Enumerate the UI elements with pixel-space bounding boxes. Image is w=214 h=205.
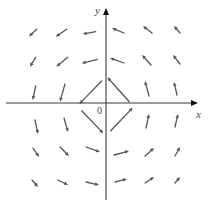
vector-shaft	[86, 182, 95, 184]
vector-arrow	[33, 148, 39, 157]
vector-shaft	[115, 180, 123, 182]
vector-arrow	[143, 26, 152, 33]
vector-arrow	[173, 82, 177, 95]
y-axis-label: y	[94, 4, 100, 16]
vector-shaft	[59, 57, 67, 64]
arrowhead-icon	[95, 182, 99, 186]
vector-arrow	[115, 178, 127, 182]
vector-arrow	[30, 57, 36, 66]
vector-shaft	[32, 180, 35, 184]
vector-arrow	[86, 147, 100, 152]
vector-arrow	[175, 114, 179, 127]
vector-arrow	[32, 180, 38, 187]
vector-shaft	[177, 29, 180, 33]
vector-arrow	[175, 147, 180, 156]
arrowhead-icon	[110, 58, 114, 61]
vector-shaft	[61, 84, 65, 98]
vector-shaft	[86, 59, 98, 62]
vector-shaft	[116, 30, 124, 33]
vector-shaft	[33, 148, 37, 154]
vector-arrow	[86, 182, 99, 186]
vector-arrow	[142, 55, 151, 65]
vector-shaft	[59, 29, 67, 34]
arrowhead-icon	[32, 96, 36, 100]
vector-field-diagram: x y 0	[0, 0, 214, 205]
vector-shaft	[146, 118, 148, 128]
vector-arrow	[79, 81, 101, 104]
y-axis-arrowhead-icon	[103, 8, 109, 15]
arrowhead-icon	[96, 149, 100, 152]
vector-arrow	[29, 29, 37, 36]
vector-arrow	[83, 32, 96, 36]
arrowhead-icon	[125, 150, 129, 153]
vector-arrow	[111, 108, 133, 131]
vector-arrow	[114, 150, 129, 155]
arrowhead-icon	[173, 82, 177, 86]
vector-shaft	[60, 147, 66, 153]
vector-shaft	[58, 180, 64, 183]
vector-shaft	[175, 86, 177, 95]
x-axis-label: x	[195, 108, 201, 120]
vector-arrow	[146, 114, 150, 128]
vector-shaft	[114, 59, 124, 63]
vector-shaft	[146, 28, 152, 33]
vector-shaft	[145, 151, 151, 156]
vector-arrow	[64, 118, 69, 132]
vector-shaft	[110, 80, 129, 101]
vector-shaft	[145, 179, 151, 183]
arrowhead-icon	[146, 114, 150, 118]
arrowhead-icon	[35, 130, 39, 134]
origin-label: 0	[97, 105, 102, 116]
vector-shaft	[34, 86, 36, 96]
vector-arrow	[107, 77, 129, 101]
arrowhead-icon	[175, 114, 179, 118]
vector-shaft	[32, 29, 37, 33]
vector-arrow	[60, 147, 69, 156]
axes	[6, 8, 198, 200]
vector-shaft	[32, 57, 36, 63]
vector-arrow	[110, 58, 124, 63]
arrowhead-icon	[144, 81, 147, 85]
vector-arrow	[82, 59, 98, 64]
arrowhead-icon	[83, 32, 87, 36]
vector-arrow	[35, 120, 39, 134]
vector-shaft	[145, 58, 151, 65]
arrowhead-icon	[59, 97, 62, 101]
vector-arrow	[173, 55, 180, 64]
vector-arrows	[29, 26, 180, 187]
vector-shaft	[111, 111, 130, 131]
vector-arrow	[32, 86, 36, 100]
vector-shaft	[114, 152, 125, 155]
vector-arrow	[58, 180, 68, 185]
vector-arrow	[144, 81, 149, 96]
vector-shaft	[86, 147, 96, 151]
vector-arrow	[145, 177, 154, 183]
vector-arrow	[175, 177, 180, 183]
arrowhead-icon	[123, 178, 127, 181]
vector-arrow	[59, 84, 65, 102]
vector-arrow	[174, 26, 180, 33]
vector-arrow	[56, 57, 67, 66]
vector-shaft	[146, 85, 149, 96]
vector-shaft	[35, 120, 37, 130]
arrowhead-icon	[65, 128, 68, 132]
vector-shaft	[82, 81, 102, 101]
vector-shaft	[87, 32, 96, 34]
vector-shaft	[175, 150, 178, 156]
vector-shaft	[175, 118, 177, 127]
arrowhead-icon	[82, 61, 86, 64]
vector-arrow	[145, 148, 154, 156]
vector-shaft	[175, 180, 177, 183]
vector-arrow	[112, 28, 124, 33]
x-axis-arrowhead-icon	[191, 100, 198, 106]
vector-shaft	[175, 58, 180, 64]
vector-arrow	[56, 29, 67, 36]
vector-shaft	[64, 118, 67, 128]
